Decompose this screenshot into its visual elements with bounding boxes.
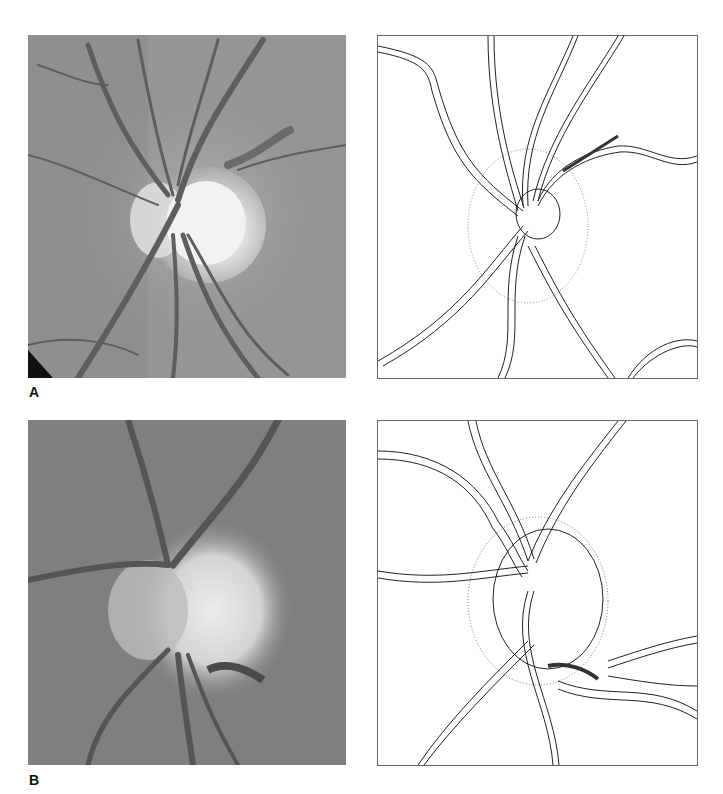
- fundus-photo-a: [28, 35, 346, 378]
- fundus-photo-b: [28, 420, 346, 765]
- panel-label-b: B: [29, 772, 39, 788]
- panel-label-a: A: [29, 384, 39, 400]
- fundus-photo-a-image: [28, 35, 346, 378]
- vessel-drawing-b-image: [378, 421, 697, 765]
- fundus-photo-b-image: [28, 420, 346, 765]
- vessel-drawing-a: [377, 35, 698, 379]
- vessel-drawing-a-image: [378, 36, 697, 378]
- vessel-drawing-b: [377, 420, 698, 766]
